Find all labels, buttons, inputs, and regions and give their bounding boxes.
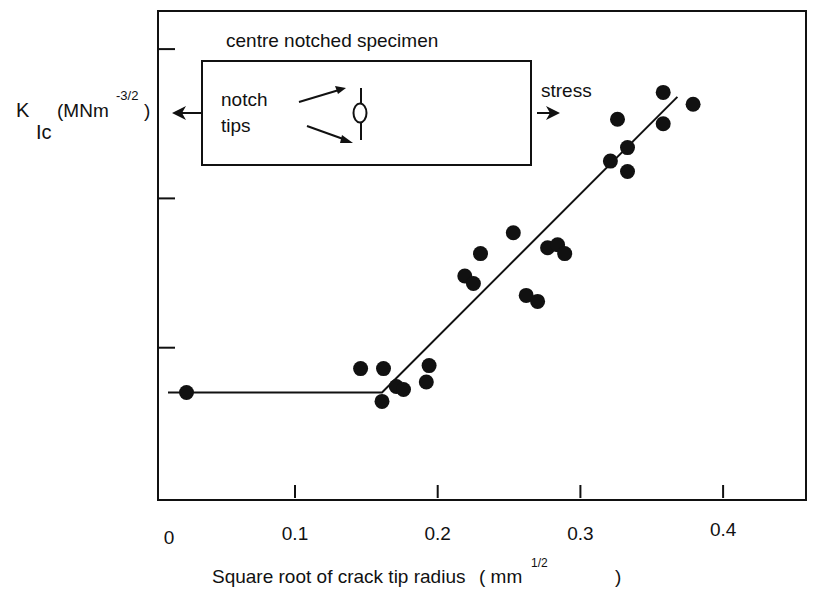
data-points bbox=[179, 85, 701, 409]
stress-label: stress bbox=[541, 80, 592, 101]
tips-label: tips bbox=[221, 115, 251, 136]
x-tick-label: 0.2 bbox=[424, 523, 450, 544]
x-axis-ticks bbox=[295, 485, 723, 498]
x-label-unit-sup: 1/2 bbox=[531, 556, 548, 570]
data-point bbox=[656, 116, 671, 131]
y-label-unit-sup: -3/2 bbox=[116, 88, 138, 103]
x-tick-label: 0.1 bbox=[282, 523, 308, 544]
data-point bbox=[656, 85, 671, 100]
stress-arrow-left-icon bbox=[172, 106, 202, 120]
x-tick-label: 0.4 bbox=[710, 519, 737, 540]
y-axis-label: K Ic (MNm -3/2 ) bbox=[16, 88, 150, 143]
data-point bbox=[375, 394, 390, 409]
stress-arrow-right-icon bbox=[537, 106, 560, 120]
y-label-unit-close: ) bbox=[144, 100, 150, 121]
fit-line bbox=[168, 97, 677, 393]
data-point bbox=[419, 375, 434, 390]
data-point bbox=[506, 225, 521, 240]
x-label-main: Square root of crack tip radius bbox=[212, 566, 465, 587]
data-point bbox=[353, 361, 368, 376]
data-point bbox=[466, 276, 481, 291]
data-point bbox=[610, 112, 625, 127]
data-point bbox=[376, 361, 391, 376]
notch-label: notch bbox=[221, 89, 267, 110]
data-point bbox=[179, 385, 194, 400]
data-point bbox=[530, 294, 545, 309]
y-label-main: K bbox=[16, 99, 30, 121]
x-tick-label: 0 bbox=[164, 527, 175, 548]
x-label-unit-close: ) bbox=[615, 566, 621, 587]
data-point bbox=[686, 97, 701, 112]
data-point bbox=[557, 246, 572, 261]
x-tick-label: 0.3 bbox=[567, 523, 593, 544]
notch-specimen-icon bbox=[354, 88, 367, 140]
data-point bbox=[396, 382, 411, 397]
inset-diagram: centre notched specimen notch tips stres… bbox=[172, 30, 592, 165]
y-axis-ticks bbox=[158, 49, 175, 348]
data-point bbox=[620, 140, 635, 155]
data-point bbox=[620, 164, 635, 179]
x-label-unit: ( mm bbox=[479, 566, 522, 587]
y-label-sub: Ic bbox=[36, 121, 52, 143]
x-axis-tick-labels: 00.10.20.30.4 bbox=[164, 519, 737, 548]
data-point bbox=[603, 154, 618, 169]
inset-title: centre notched specimen bbox=[226, 30, 438, 51]
data-point bbox=[422, 358, 437, 373]
notch-pointer-arrow-upper bbox=[299, 86, 346, 102]
chart: 00.10.20.30.4 centre notched specimen no… bbox=[0, 0, 817, 597]
notch-pointer-arrow-lower bbox=[307, 126, 353, 143]
data-point bbox=[473, 246, 488, 261]
x-axis-label: Square root of crack tip radius ( mm 1/2… bbox=[212, 556, 621, 587]
y-label-unit: (MNm bbox=[57, 100, 109, 121]
